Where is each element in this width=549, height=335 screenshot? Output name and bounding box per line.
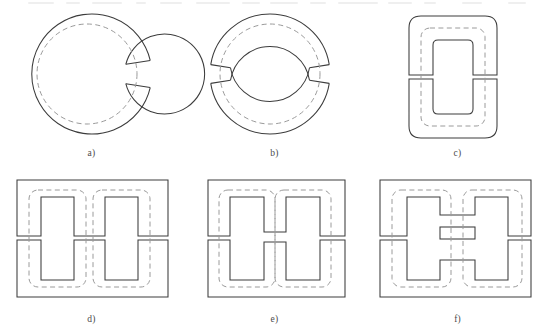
ring-upper-outer-arc [210,14,329,65]
figure-d-drawing [0,172,183,312]
figure-a-label: a) [0,149,183,159]
figure-d: d) [0,172,183,325]
figure-grid: a) b) [0,6,549,335]
cc-core-lower-half [409,79,497,138]
figure-b: b) [183,6,366,159]
ring-lower-outer-arc [210,83,329,134]
diagram-sheet: a) b) [0,0,549,335]
ring-outer-arc [31,14,149,134]
cc-core-upper-half [409,16,497,75]
centre-bar-middle [440,227,475,239]
ring-lower-inner-arc [230,47,309,81]
figure-c-drawing [383,6,533,146]
figure-c-label: c) [366,149,549,159]
ring-gap-left-lower-face [210,80,230,83]
figure-d-label: d) [0,315,183,325]
ei-core-upper-half [208,180,345,236]
figure-f-label: f) [366,315,549,325]
flux-path-circle [220,24,320,124]
figure-e-drawing [183,172,366,312]
ring-gap-face-upper [125,60,149,64]
figure-f: f) [366,172,549,325]
figure-b-drawing [190,6,360,146]
ring-gap-face-lower [125,84,149,88]
figure-a-drawing [7,6,177,146]
figure-e: e) [183,172,366,325]
figure-a: a) [0,6,183,159]
flux-path-circle [37,24,137,124]
figure-c: c) [366,6,549,159]
ring-upper-inner-arc [230,68,309,102]
ei-core-lower-half [208,240,345,297]
ei-multigap-lower-half [380,240,531,297]
figure-f-drawing [366,172,549,312]
figure-e-label: e) [183,315,366,325]
figure-b-label: b) [183,149,366,159]
